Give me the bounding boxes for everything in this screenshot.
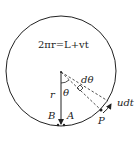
dtheta-label: dθ <box>81 74 93 85</box>
r-label: r <box>50 89 56 100</box>
point-p <box>100 109 103 112</box>
theta-arc <box>61 80 69 83</box>
udt-label: udt <box>117 97 135 108</box>
point-b <box>57 124 59 126</box>
b-label: B <box>47 110 55 121</box>
a-label: A <box>66 110 74 121</box>
equation-label: 2πr=L+vt <box>38 39 89 50</box>
p-label: P <box>97 115 105 126</box>
point-a <box>63 124 65 126</box>
theta-label: θ <box>63 87 69 98</box>
circle-diagram: 2πr=L+vt r θ dθ B A P udt <box>0 0 136 145</box>
